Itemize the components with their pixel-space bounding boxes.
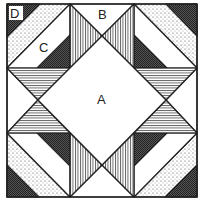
corner-bottom-left	[7, 133, 70, 197]
label-a: A	[97, 92, 106, 107]
label-b: B	[98, 7, 107, 22]
corner-top-right	[134, 4, 197, 68]
quilt-block-diagram: D B C A	[0, 0, 206, 204]
label-c: C	[39, 40, 48, 55]
label-d: D	[10, 6, 19, 21]
corner-bottom-right	[134, 133, 197, 197]
